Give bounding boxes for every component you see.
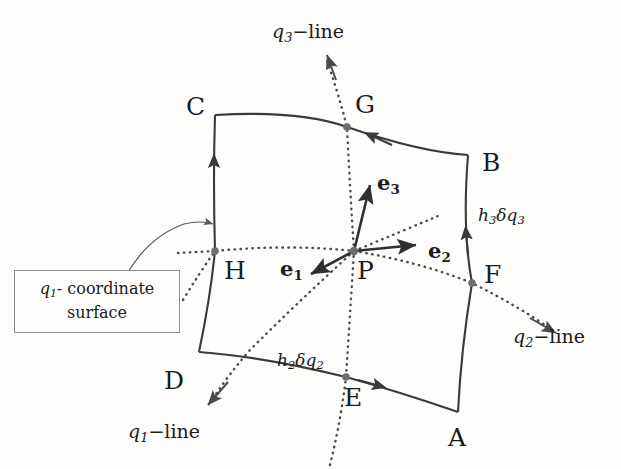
h3-delta-q3-label: h3δq3 [478, 207, 525, 227]
point-label-B: B [482, 150, 501, 175]
point-label-C: C [186, 94, 205, 119]
diagram-canvas [0, 0, 621, 469]
e3-subscript: 3 [390, 181, 399, 197]
node-E [342, 373, 350, 381]
point-label-H: H [224, 258, 246, 283]
q2-line-label: q2−line [513, 327, 585, 350]
callout-text-1: - coordinate [57, 279, 154, 298]
coordinate-surface-callout: q1- coordinate surface [14, 270, 180, 333]
edge-arrow-right [466, 232, 468, 255]
delta-q3-subscript: 3 [517, 213, 524, 227]
q1-line-arrow [208, 382, 228, 405]
patch-edge-AD [199, 352, 458, 412]
point-label-P: P [357, 258, 374, 283]
q2-symbol: q [513, 325, 525, 347]
callout-subscript: 1 [50, 287, 57, 300]
e2-vector-label: e2 [428, 240, 451, 264]
h3-symbol: h [478, 205, 489, 225]
callout-symbol: q [40, 279, 50, 298]
e3-symbol: e [377, 170, 390, 195]
e3-vector-arrow [354, 185, 370, 251]
curvilinear-coordinates-figure: q3−line q2−line q1−line h3δq3 h2δq2 e1 e… [0, 0, 621, 469]
q1-line-label: q1−line [128, 422, 200, 445]
q1-symbol: q [128, 420, 140, 442]
node-F [468, 279, 476, 287]
e3-vector-label: e3 [377, 172, 400, 196]
callout-leader-line [128, 222, 213, 272]
node-H [211, 247, 219, 255]
node-G [343, 123, 351, 131]
callout-text-2: surface [67, 303, 127, 322]
point-label-D: D [164, 368, 184, 393]
delta-q3-symbol: δq [496, 205, 517, 225]
point-label-A: A [448, 425, 466, 450]
point-label-E: E [344, 385, 362, 410]
point-label-F: F [484, 262, 502, 287]
q3-symbol: q [272, 20, 284, 42]
q2-line-left-stub [178, 251, 215, 253]
e1-vector-label: e1 [280, 258, 303, 282]
node-P [350, 247, 358, 255]
e1-subscript: 1 [293, 267, 302, 283]
q2-suffix: −line [533, 325, 585, 347]
callout-line-1: q1- coordinate [40, 279, 155, 298]
q3-line-label: q3−line [272, 22, 344, 45]
delta-q2-subscript: 2 [316, 358, 323, 372]
e1-symbol: e [280, 256, 293, 281]
patch-edge-DC [199, 115, 215, 352]
h2-delta-q2-label: h2δq2 [277, 352, 324, 372]
patch-edge-CB [215, 114, 468, 155]
q1-suffix: −line [148, 420, 200, 442]
point-label-G: G [355, 92, 375, 117]
e2-symbol: e [428, 238, 441, 263]
q3-suffix: −line [292, 20, 344, 42]
e2-vector-arrow [354, 245, 416, 251]
h2-symbol: h [277, 350, 288, 370]
e2-subscript: 2 [441, 249, 450, 265]
delta-q2-symbol: δq [295, 350, 316, 370]
